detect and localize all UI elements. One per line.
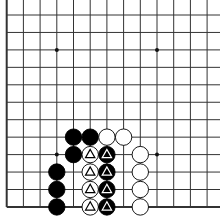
white-stone[interactable] bbox=[99, 129, 115, 145]
white-stone[interactable] bbox=[132, 181, 148, 197]
stones-layer bbox=[49, 129, 149, 215]
white-stone[interactable] bbox=[132, 146, 148, 162]
black-stone[interactable] bbox=[65, 146, 81, 162]
black-stone[interactable] bbox=[49, 181, 65, 197]
star-point bbox=[55, 153, 59, 157]
black-stone[interactable] bbox=[82, 129, 98, 145]
black-stone-triangle-marked[interactable] bbox=[99, 181, 115, 197]
black-stone[interactable] bbox=[65, 129, 81, 145]
white-stone[interactable] bbox=[132, 199, 148, 215]
go-board[interactable] bbox=[0, 0, 220, 218]
white-stone-triangle-marked[interactable] bbox=[82, 199, 98, 215]
black-stone[interactable] bbox=[49, 199, 65, 215]
black-stone-triangle-marked[interactable] bbox=[99, 146, 115, 162]
white-stone[interactable] bbox=[132, 164, 148, 180]
star-point bbox=[155, 48, 159, 52]
white-stone-triangle-marked[interactable] bbox=[82, 164, 98, 180]
black-stone[interactable] bbox=[49, 164, 65, 180]
star-point bbox=[155, 153, 159, 157]
white-stone-triangle-marked[interactable] bbox=[82, 146, 98, 162]
star-point bbox=[55, 48, 59, 52]
black-stone-triangle-marked[interactable] bbox=[99, 164, 115, 180]
black-stone-triangle-marked[interactable] bbox=[99, 199, 115, 215]
white-stone[interactable] bbox=[115, 129, 131, 145]
white-stone-triangle-marked[interactable] bbox=[82, 181, 98, 197]
